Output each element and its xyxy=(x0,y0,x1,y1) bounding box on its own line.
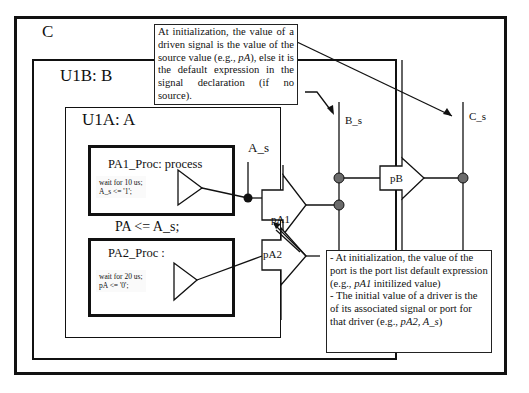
port-pa2-label: pA2 xyxy=(263,248,282,260)
port-pa1-icon xyxy=(262,175,306,235)
port-pb-label: pB xyxy=(390,172,403,184)
junction-b-s-top-icon xyxy=(334,173,344,183)
note-top-italic: pA xyxy=(238,52,250,63)
junction-c-s-icon xyxy=(458,173,468,183)
note-bottom-p2-italic: pA2, A_s xyxy=(401,316,439,327)
note-driven-signal: At initialization, the value of a driven… xyxy=(154,24,298,105)
driver-pa1-icon xyxy=(178,170,202,205)
driver-pa2-icon xyxy=(174,263,197,300)
port-pa1-label: pA1 xyxy=(271,213,290,225)
note-port-driver: - At initialization, the value of the po… xyxy=(326,250,492,353)
signal-c-s-label: C_s xyxy=(469,110,486,122)
signal-a-s-label: A_s xyxy=(248,140,269,156)
junction-b-s-bottom-icon xyxy=(334,200,344,210)
note-bottom-p2-text-2: ) xyxy=(439,316,443,327)
note-bottom-para-1: - At initialization, the value of the po… xyxy=(330,252,488,290)
note-bottom-para-2: - The initial value of a driver is the o… xyxy=(330,290,488,328)
junction-a-s-icon xyxy=(244,194,253,203)
arrowhead-c-s-icon xyxy=(443,108,452,116)
note-bottom-p1-text-2: initilized value) xyxy=(371,278,440,289)
note-bottom-p1-italic: pA1 xyxy=(354,278,371,289)
signal-b-s-label: B_s xyxy=(345,114,362,126)
